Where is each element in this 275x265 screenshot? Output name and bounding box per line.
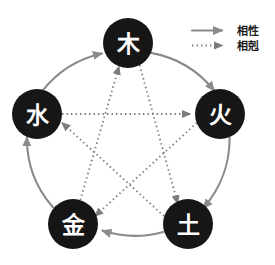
node-wood[interactable]: 木: [103, 18, 153, 68]
wuxing-diagram: 木 火 土 金 水 相性 相剋: [0, 0, 275, 265]
node-fire-label: 火: [209, 102, 232, 128]
legend-ke-label: 相剋: [237, 39, 259, 53]
legend: 相性 相剋: [192, 24, 259, 53]
legend-item-ke: 相剋: [192, 39, 259, 53]
node-wood-label: 木: [116, 31, 140, 57]
node-earth-label: 土: [177, 212, 200, 238]
legend-item-sheng: 相性: [192, 24, 259, 38]
sheng-arrow-metal-to-water: [27, 137, 53, 207]
sheng-arrow-wood-to-fire: [151, 53, 214, 91]
wuxing-canvas: 木 火 土 金 水 相性 相剋: [0, 0, 275, 265]
node-metal-label: 金: [61, 212, 86, 238]
node-earth[interactable]: 土: [163, 199, 213, 249]
node-water-label: 水: [26, 102, 50, 128]
node-metal[interactable]: 金: [48, 199, 98, 249]
sheng-arrow-fire-to-earth: [203, 137, 229, 208]
ke-arrow-wood-to-earth: [140, 65, 178, 203]
sheng-arrow-earth-to-metal: [102, 231, 163, 236]
sheng-arrow-water-to-wood: [43, 54, 102, 91]
node-fire[interactable]: 火: [195, 89, 245, 139]
node-water[interactable]: 水: [12, 89, 62, 139]
ke-arrow-metal-to-wood: [80, 67, 119, 201]
ke-cycle-group: [62, 65, 197, 216]
legend-sheng-label: 相性: [237, 24, 259, 38]
